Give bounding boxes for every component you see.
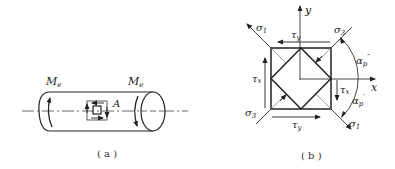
sigma3-lower-label: σ3 [245, 107, 257, 120]
moment-left-label: Me [45, 75, 61, 89]
shaft-right-end [141, 92, 165, 131]
figure-canvas: Me Me A ( a ) y x [0, 0, 395, 169]
alpha-upper-label: αp″ [356, 53, 370, 68]
sigma3-upper-label: σ3 [334, 24, 346, 37]
tau-x-right-label: τx [340, 84, 350, 96]
tau-x-left-label: τx [252, 73, 262, 85]
alpha-lower-label: αp′ [352, 93, 365, 108]
y-axis-label: y [304, 4, 312, 17]
moment-right-label: Me [127, 75, 143, 89]
point-a-label: A [112, 98, 120, 109]
tau-y-bottom-label: τy [292, 119, 303, 132]
moment-left-arrow-icon [48, 98, 52, 127]
stress-element-a [87, 101, 107, 120]
sigma3-lower-line [256, 109, 271, 124]
panel-a-shaft [22, 92, 188, 131]
panel-b-element [247, 6, 375, 129]
sigma1-upper-label: σ1 [256, 22, 267, 35]
caption-b: ( b ) [301, 150, 322, 161]
caption-a: ( a ) [97, 148, 117, 159]
x-axis-label: x [371, 81, 378, 94]
